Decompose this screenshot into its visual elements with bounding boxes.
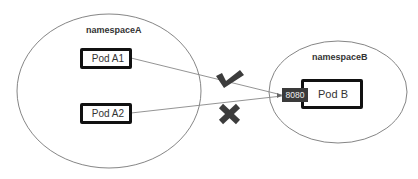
- connection-line-a1: [131, 58, 282, 95]
- pod-a2-label: Pod A2: [92, 108, 124, 119]
- pod-b-label: Pod B: [318, 88, 348, 100]
- connection-line-a2: [131, 96, 282, 113]
- namespace-a-label: namespaceA: [86, 25, 142, 35]
- namespace-b-label: namespaceB: [312, 52, 368, 62]
- pod-a1: Pod A1: [80, 48, 132, 69]
- cross-icon: [221, 106, 238, 122]
- check-icon: [216, 70, 244, 88]
- port-badge: 8080: [282, 88, 308, 102]
- pod-a1-label: Pod A1: [92, 53, 124, 64]
- pod-a2: Pod A2: [80, 103, 132, 124]
- pod-b: Pod B: [301, 79, 363, 109]
- port-label: 8080: [286, 90, 305, 100]
- namespace-a-boundary: [17, 14, 201, 168]
